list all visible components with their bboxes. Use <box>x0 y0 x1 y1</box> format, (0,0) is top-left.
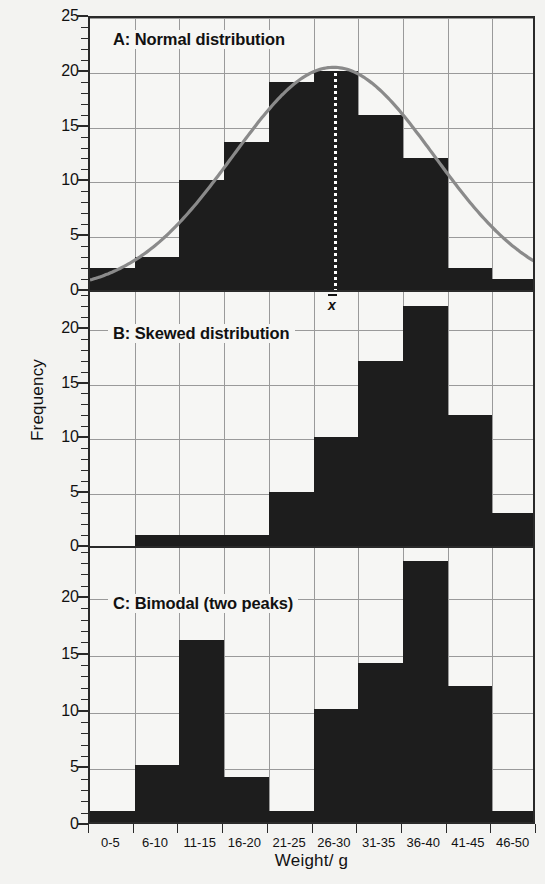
histogram-bar <box>314 437 358 546</box>
gridline-horizontal <box>90 73 533 74</box>
panel-title: B: Skewed distribution <box>108 324 295 343</box>
y-tick-minor <box>81 688 88 689</box>
histogram-bar <box>90 268 135 290</box>
y-tick-minor <box>81 699 88 700</box>
y-tick-major <box>77 653 88 655</box>
y-tick-minor <box>81 148 88 149</box>
y-tick-major <box>77 15 88 17</box>
y-tick-label: 20 <box>45 320 79 336</box>
histogram-bar <box>403 158 448 290</box>
histogram-bar <box>224 142 269 290</box>
y-tick-minor <box>81 295 88 296</box>
y-tick-minor <box>81 404 88 405</box>
gridline-vertical <box>135 18 136 290</box>
y-tick-minor <box>81 60 88 61</box>
y-tick-major <box>77 125 88 127</box>
y-tick-label: 25 <box>45 8 79 24</box>
x-tick <box>446 824 447 833</box>
y-tick-minor <box>81 745 88 746</box>
gridline-vertical <box>492 18 493 290</box>
y-tick-label: 20 <box>45 589 79 605</box>
gridline-vertical <box>492 292 493 546</box>
histogram-figure: Frequency Weight/ g xA: Normal distribut… <box>0 0 545 884</box>
y-tick-minor <box>81 137 88 138</box>
y-tick-minor <box>81 82 88 83</box>
x-tick <box>133 824 134 833</box>
y-tick-minor <box>81 202 88 203</box>
y-tick-label: 15 <box>45 646 79 662</box>
panel-a-plot-area <box>88 16 535 290</box>
y-tick-minor <box>81 339 88 340</box>
y-tick-minor <box>81 448 88 449</box>
y-tick-major <box>77 234 88 236</box>
y-tick-minor <box>81 93 88 94</box>
y-tick-major <box>77 70 88 72</box>
histogram-bar <box>269 492 314 546</box>
histogram-bar <box>269 82 314 290</box>
x-tick <box>312 824 313 833</box>
y-tick-minor <box>81 733 88 734</box>
y-tick-label: 5 <box>45 759 79 775</box>
y-tick-label: 10 <box>45 172 79 188</box>
y-tick-major <box>77 823 88 825</box>
histogram-bar <box>179 640 224 822</box>
mean-symbol-label: x <box>312 294 352 313</box>
y-tick-minor <box>81 481 88 482</box>
x-tick <box>535 824 536 833</box>
gridline-vertical <box>269 548 270 822</box>
y-tick-major <box>77 766 88 768</box>
x-tick <box>490 824 491 833</box>
gridline-vertical <box>492 548 493 822</box>
y-tick-minor <box>81 631 88 632</box>
y-tick-label: 15 <box>45 375 79 391</box>
histogram-bar <box>314 709 358 822</box>
histogram-bar <box>135 765 179 822</box>
y-tick-label: 15 <box>45 118 79 134</box>
y-tick-minor <box>81 27 88 28</box>
y-tick-minor <box>81 459 88 460</box>
gridline-horizontal <box>90 18 533 19</box>
panel-title: C: Bimodal (two peaks) <box>108 594 298 613</box>
y-tick-minor <box>81 115 88 116</box>
y-tick-minor <box>81 415 88 416</box>
y-tick-minor <box>81 268 88 269</box>
y-tick-major <box>77 545 88 547</box>
y-tick-major <box>77 179 88 181</box>
y-tick-minor <box>81 169 88 170</box>
x-tick-label: 46-50 <box>490 835 535 850</box>
y-tick-minor <box>81 586 88 587</box>
x-tick <box>88 824 89 833</box>
y-tick-minor <box>81 361 88 362</box>
y-tick-minor <box>81 306 88 307</box>
y-tick-minor <box>81 813 88 814</box>
y-tick-major <box>77 327 88 329</box>
histogram-bar <box>403 561 448 822</box>
x-tick-label: 41-45 <box>446 835 491 850</box>
histogram-bar <box>358 663 403 822</box>
y-tick-minor <box>81 213 88 214</box>
y-tick-minor <box>81 502 88 503</box>
y-tick-minor <box>81 38 88 39</box>
y-tick-minor <box>81 676 88 677</box>
y-tick-minor <box>81 350 88 351</box>
histogram-bar <box>492 513 535 546</box>
histogram-bar <box>403 306 448 546</box>
y-tick-minor <box>81 801 88 802</box>
histogram-bar <box>358 361 403 546</box>
panel-title: A: Normal distribution <box>108 30 290 49</box>
y-tick-major <box>77 436 88 438</box>
y-tick-minor <box>81 524 88 525</box>
y-tick-minor <box>81 49 88 50</box>
y-tick-minor <box>81 257 88 258</box>
histogram-bar <box>448 415 492 546</box>
y-tick-minor <box>81 191 88 192</box>
y-tick-minor <box>81 246 88 247</box>
y-tick-major <box>77 382 88 384</box>
y-tick-minor <box>81 665 88 666</box>
y-tick-label: 0 <box>45 282 79 298</box>
y-tick-minor <box>81 574 88 575</box>
gridline-horizontal <box>90 385 533 386</box>
y-tick-minor <box>81 535 88 536</box>
panel-a <box>88 16 535 290</box>
y-tick-minor <box>81 779 88 780</box>
